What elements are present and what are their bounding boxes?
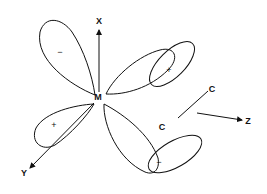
lobe-upper-right	[106, 49, 175, 94]
y-axis-arrow	[30, 103, 94, 168]
sign-lower-right: −	[156, 157, 161, 167]
carbon-label-2: C	[159, 122, 166, 132]
metal-label: M	[94, 92, 102, 102]
sign-upper-left: −	[57, 47, 62, 57]
z-axis-arrow	[197, 113, 242, 120]
sign-lower-left: +	[51, 120, 56, 130]
sign-upper-right: +	[166, 65, 171, 75]
lobe-upper-left	[40, 20, 95, 95]
carbon-label-1: C	[209, 84, 216, 94]
z-axis-label: Z	[245, 116, 251, 126]
lobe-lower-right	[104, 104, 158, 173]
orbital-diagram: X M Y Z C C − + + −	[0, 0, 267, 194]
x-axis-label: X	[96, 16, 102, 26]
carbon-p-orbital-upper	[142, 34, 201, 93]
y-axis-label: Y	[21, 168, 27, 178]
lobe-lower-left	[34, 104, 94, 147]
